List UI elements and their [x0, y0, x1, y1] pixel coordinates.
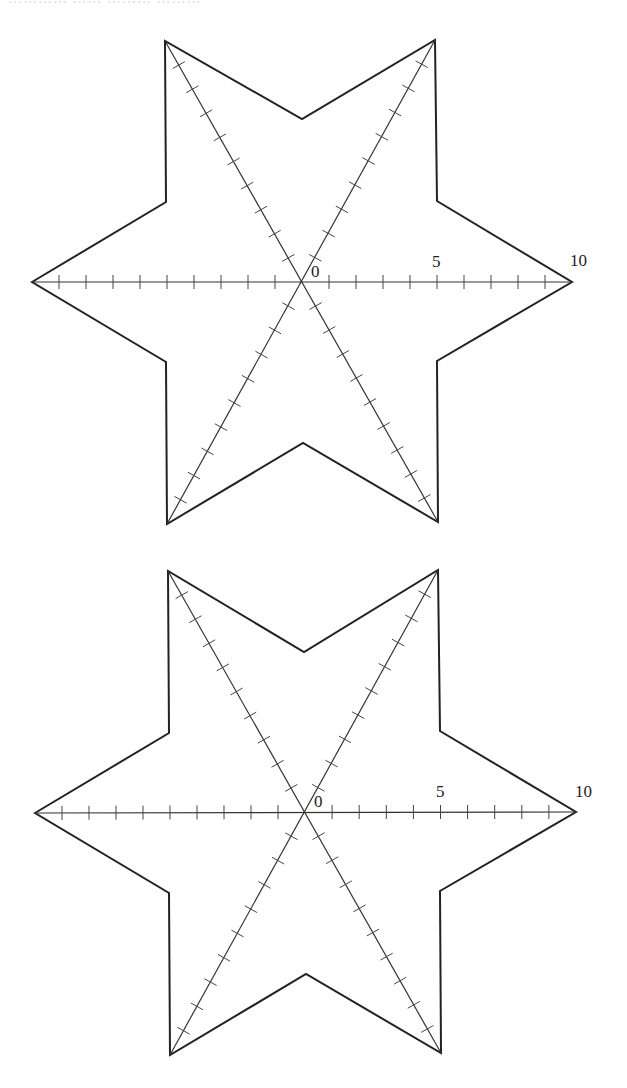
axis-tick-label: 0 [314, 792, 323, 811]
axis-tick [255, 206, 267, 213]
axis-tick [367, 929, 379, 936]
axis-tick-label: 0 [311, 262, 320, 281]
axis-tick [242, 375, 254, 382]
axis-tick [231, 930, 243, 937]
axis-tick [323, 327, 335, 334]
axis-tick [352, 712, 364, 719]
axis-tick [258, 736, 270, 743]
axis-tick [244, 712, 256, 719]
axis-tick [362, 158, 374, 165]
axis-tick [227, 158, 239, 165]
axis-tick [176, 592, 188, 599]
axis-tick [173, 62, 185, 69]
axis-tick [285, 784, 297, 791]
axis-tick [217, 664, 229, 671]
axis-tick [174, 496, 186, 503]
axis-tick [326, 857, 338, 864]
axis-tick [381, 953, 393, 960]
axis-tick [241, 182, 253, 189]
axis-tick [230, 688, 242, 695]
axis-tick [405, 471, 417, 478]
axis-tick [339, 736, 351, 743]
axis-tick [218, 954, 230, 961]
axis-tick [215, 424, 227, 431]
axis-tick [376, 133, 388, 140]
axis-tick [186, 86, 198, 93]
axis-tick [245, 906, 257, 913]
axis-tick [258, 882, 270, 889]
axis-tick [203, 640, 215, 647]
axis-tick [200, 110, 212, 117]
axis-tick [349, 182, 361, 189]
axis-tick-label: 5 [436, 782, 445, 801]
axis-tick [313, 833, 325, 840]
axis-tick [389, 109, 401, 116]
axis-tick-label: 5 [432, 252, 441, 271]
axis-tick [416, 61, 428, 68]
six-pointed-star-figure-bottom: 0510 [35, 570, 592, 1055]
axis-tick [201, 448, 213, 455]
axis-tick [421, 1025, 433, 1032]
axis-tick [310, 303, 322, 310]
six-pointed-star-figure-top: 0510 [32, 40, 587, 524]
axis-tick [418, 495, 430, 502]
axis-tick [228, 400, 240, 407]
axis-tick [269, 230, 281, 237]
axis-tick [392, 639, 404, 646]
axis-tick [402, 85, 414, 92]
axis-tick [394, 977, 406, 984]
axis-tick [325, 760, 337, 767]
axis-tick [379, 663, 391, 670]
axis-tick-label: 10 [575, 782, 592, 801]
axis-tick [204, 979, 216, 986]
axis-tick [191, 1003, 203, 1010]
axis-tick [337, 351, 349, 358]
axis-tick [408, 1001, 420, 1008]
axis-tick [189, 616, 201, 623]
axis-tick [272, 857, 284, 864]
axis-tick [282, 254, 294, 261]
axis-tick [364, 399, 376, 406]
axis-tick [340, 881, 352, 888]
axis-tick [419, 591, 431, 598]
axis-tick [353, 905, 365, 912]
axis-tick [405, 615, 417, 622]
axis-tick [365, 688, 377, 695]
axis-tick [350, 375, 362, 382]
axis-tick [272, 760, 284, 767]
axis-tick [378, 423, 390, 430]
axis-tick [177, 1027, 189, 1034]
axis-tick-label: 10 [570, 251, 587, 270]
axis-tick [391, 447, 403, 454]
axis-tick [188, 472, 200, 479]
diagram-canvas: 0510 0510 [0, 0, 627, 1088]
axis-tick [214, 134, 226, 141]
